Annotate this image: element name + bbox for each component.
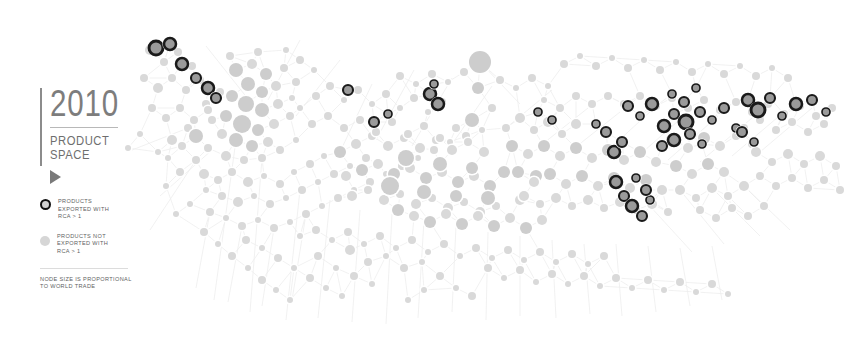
product-node-not-exported[interactable]	[788, 174, 796, 182]
product-node-not-exported[interactable]	[217, 129, 227, 139]
product-node-not-exported[interactable]	[286, 112, 294, 120]
product-node-not-exported[interactable]	[513, 85, 519, 91]
product-node-exported[interactable]	[202, 82, 214, 94]
product-node-not-exported[interactable]	[651, 157, 661, 167]
product-node-not-exported[interactable]	[520, 222, 532, 234]
product-node-not-exported[interactable]	[255, 217, 261, 223]
product-node-not-exported[interactable]	[772, 126, 780, 134]
product-node-not-exported[interactable]	[436, 272, 444, 280]
product-node-not-exported[interactable]	[537, 215, 547, 225]
product-node-not-exported[interactable]	[330, 170, 338, 178]
product-node-not-exported[interactable]	[256, 86, 268, 98]
product-node-exported[interactable]	[534, 108, 542, 116]
product-node-not-exported[interactable]	[597, 283, 603, 289]
product-node-not-exported[interactable]	[214, 176, 222, 184]
product-node-exported[interactable]	[685, 129, 695, 139]
product-node-not-exported[interactable]	[644, 276, 652, 284]
product-node-exported[interactable]	[619, 191, 629, 201]
product-node-not-exported[interactable]	[341, 97, 347, 103]
product-node-not-exported[interactable]	[259, 245, 265, 251]
product-node-not-exported[interactable]	[515, 113, 525, 123]
product-node-not-exported[interactable]	[502, 124, 510, 132]
product-node-not-exported[interactable]	[340, 124, 348, 132]
product-node-not-exported[interactable]	[558, 130, 566, 138]
product-node-not-exported[interactable]	[440, 240, 448, 248]
product-node-not-exported[interactable]	[512, 166, 524, 178]
product-node-exported[interactable]	[608, 146, 620, 158]
product-node-not-exported[interactable]	[536, 248, 544, 256]
product-node-not-exported[interactable]	[592, 62, 600, 70]
product-node-not-exported[interactable]	[481, 191, 495, 205]
product-node-not-exported[interactable]	[297, 105, 303, 111]
product-node-not-exported[interactable]	[415, 155, 421, 161]
product-node-not-exported[interactable]	[619, 155, 629, 165]
product-node-not-exported[interactable]	[302, 210, 310, 218]
product-node-not-exported[interactable]	[612, 274, 620, 282]
product-node-not-exported[interactable]	[258, 276, 266, 284]
product-node-not-exported[interactable]	[528, 74, 536, 82]
product-node-not-exported[interactable]	[700, 96, 708, 104]
product-node-not-exported[interactable]	[464, 138, 472, 146]
product-node-not-exported[interactable]	[421, 287, 427, 293]
product-node-exported[interactable]	[176, 58, 188, 70]
product-node-not-exported[interactable]	[251, 193, 257, 199]
product-node-not-exported[interactable]	[140, 74, 148, 82]
product-node-not-exported[interactable]	[466, 162, 478, 174]
product-node-exported[interactable]	[343, 85, 353, 95]
product-node-not-exported[interactable]	[192, 156, 200, 164]
product-node-not-exported[interactable]	[246, 140, 258, 152]
product-node-exported[interactable]	[668, 90, 676, 98]
product-node-not-exported[interactable]	[744, 212, 752, 220]
product-node-not-exported[interactable]	[315, 179, 321, 185]
product-node-not-exported[interactable]	[334, 194, 342, 202]
product-node-not-exported[interactable]	[571, 119, 581, 129]
product-node-not-exported[interactable]	[334, 146, 346, 158]
product-node-exported[interactable]	[432, 98, 444, 110]
product-node-not-exported[interactable]	[457, 253, 463, 259]
product-node-not-exported[interactable]	[247, 59, 257, 69]
product-node-not-exported[interactable]	[269, 119, 279, 129]
product-node-not-exported[interactable]	[832, 162, 840, 170]
product-node-not-exported[interactable]	[804, 184, 812, 192]
product-node-not-exported[interactable]	[634, 146, 646, 158]
product-node-not-exported[interactable]	[182, 86, 190, 94]
product-node-not-exported[interactable]	[661, 287, 667, 293]
product-node-not-exported[interactable]	[600, 252, 608, 260]
product-node-not-exported[interactable]	[737, 63, 743, 69]
product-node-exported[interactable]	[765, 93, 775, 103]
product-node-not-exported[interactable]	[229, 63, 243, 77]
product-node-not-exported[interactable]	[751, 147, 761, 157]
product-node-exported[interactable]	[708, 116, 716, 124]
product-node-not-exported[interactable]	[788, 118, 796, 126]
product-node-not-exported[interactable]	[702, 158, 714, 170]
product-node-not-exported[interactable]	[812, 112, 820, 120]
product-node-not-exported[interactable]	[238, 96, 254, 112]
product-node-not-exported[interactable]	[411, 199, 421, 209]
product-node-not-exported[interactable]	[419, 259, 425, 265]
product-node-not-exported[interactable]	[600, 204, 608, 212]
product-node-not-exported[interactable]	[441, 209, 451, 219]
product-node-not-exported[interactable]	[347, 191, 357, 201]
product-node-not-exported[interactable]	[260, 68, 272, 80]
product-node-exported[interactable]	[790, 98, 802, 110]
product-node-not-exported[interactable]	[176, 168, 184, 176]
product-node-not-exported[interactable]	[408, 236, 416, 244]
product-node-not-exported[interactable]	[505, 213, 515, 223]
product-node-not-exported[interactable]	[456, 218, 468, 230]
product-node-not-exported[interactable]	[629, 285, 635, 291]
product-node-not-exported[interactable]	[341, 171, 351, 181]
product-node-not-exported[interactable]	[752, 72, 760, 80]
product-node-not-exported[interactable]	[768, 158, 776, 166]
product-node-not-exported[interactable]	[521, 257, 527, 263]
product-node-not-exported[interactable]	[425, 249, 431, 255]
product-node-exported[interactable]	[719, 103, 729, 113]
product-node-exported[interactable]	[601, 127, 611, 137]
product-node-exported[interactable]	[592, 120, 600, 128]
product-node-not-exported[interactable]	[382, 90, 390, 98]
product-node-not-exported[interactable]	[383, 253, 389, 259]
product-node-exported[interactable]	[657, 141, 667, 151]
product-node-not-exported[interactable]	[323, 285, 329, 291]
product-node-not-exported[interactable]	[361, 241, 367, 247]
product-node-not-exported[interactable]	[420, 172, 432, 184]
product-node-not-exported[interactable]	[538, 140, 550, 152]
